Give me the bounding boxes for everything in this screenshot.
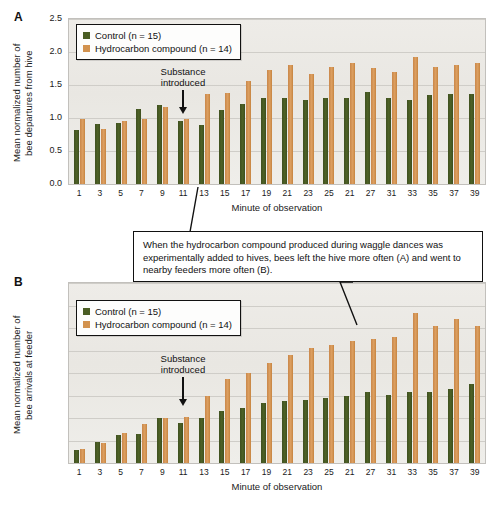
callout-box: When the hydrocarbon compound produced d… [133,231,483,282]
callout-text: When the hydrocarbon compound produced d… [143,239,461,275]
bee-waggle-dance-figure: A Mean normalized number of bee departur… [0,0,493,505]
